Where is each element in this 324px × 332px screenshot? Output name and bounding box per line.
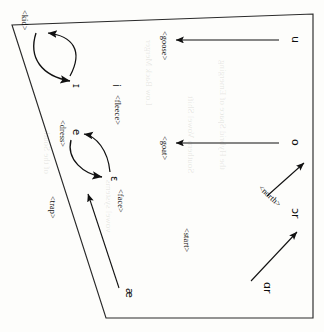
- arrow-north-raising: [267, 163, 304, 196]
- vowel-symbol-u: u: [290, 36, 301, 43]
- arrow-fleece-raising: [34, 33, 70, 81]
- label-dress: <dress>: [58, 120, 66, 147]
- label-trap: <trap>: [48, 196, 56, 219]
- vowel-symbol-or: ɔr: [290, 208, 301, 219]
- arrow-face-raising: [70, 140, 102, 177]
- vowel-symbol-e: e: [71, 129, 81, 135]
- vowel-symbol-kit: ɪ: [71, 84, 81, 88]
- label-start: <start>: [182, 228, 190, 252]
- arrow-kit-lowering: [48, 33, 76, 76]
- label-kid: <kid>: [20, 10, 28, 30]
- diagram-canvas: the Hybrid Space of Emerging Southern Vo…: [0, 0, 324, 332]
- vowel-symbol-ar: ɑr: [262, 282, 273, 294]
- vowel-symbol-o: o: [290, 139, 301, 146]
- vowel-symbol-i: i: [111, 84, 121, 87]
- label-goat: <goat>: [160, 136, 168, 160]
- label-face: <face>: [116, 189, 124, 213]
- arrow-start-backing: [251, 232, 297, 281]
- vowel-symbol-ash: æ: [124, 288, 134, 298]
- arrow-trap-fronting: [88, 194, 119, 288]
- label-fleece: <fleece>: [113, 95, 121, 125]
- rotated-figure-canvas: the Hybrid Space of Emerging Southern Vo…: [0, 0, 324, 332]
- vowel-symbol-epsilon: ɛ: [109, 176, 119, 181]
- label-goose: <goose>: [160, 31, 168, 60]
- arrow-dress-lowering: [84, 134, 110, 172]
